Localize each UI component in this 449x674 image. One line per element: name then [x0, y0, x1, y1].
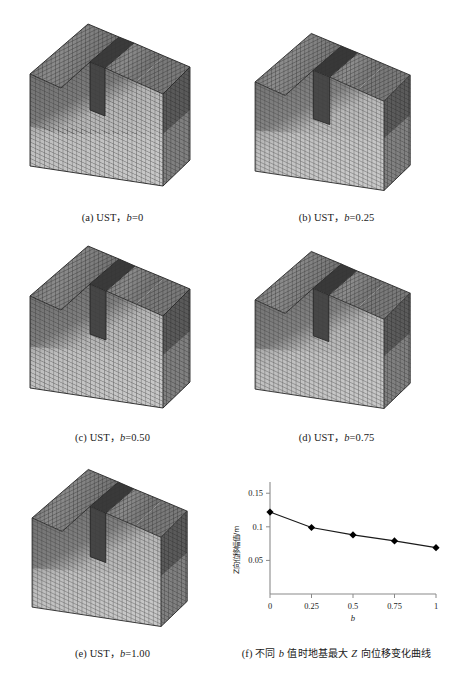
y-tick-label: 0.05: [248, 556, 263, 565]
caption-f-prefix: (f): [242, 648, 253, 659]
fem-mesh-svg-d: [232, 234, 442, 424]
series-polyline: [270, 512, 436, 548]
caption-c: (c) UST，b=0.50: [0, 429, 225, 444]
y-tick-label: 0.1: [253, 523, 263, 532]
caption-e-prefix: (e): [75, 648, 87, 659]
caption-f: (f) 不同 b 值时地基最大 Z 向位移变化曲线: [224, 645, 449, 660]
data-point-marker: [391, 537, 398, 544]
chart-svg: 0.050.10.15 00.250.50.751b: [234, 470, 446, 622]
panel-b: (b) UST，b=0.25: [224, 6, 449, 230]
data-point-marker: [308, 524, 315, 531]
fem-mesh-svg-c: [12, 228, 217, 424]
caption-b-value: =0.25: [350, 212, 375, 223]
panel-f: Z向位移幅值/m 0.050.10.15 00.250.50.751b b (f…: [224, 446, 449, 670]
fem-mesh-svg-b: [232, 16, 442, 206]
fem-block-d: [232, 234, 442, 424]
caption-b-label: UST，: [314, 212, 344, 223]
caption-f-cn3: 向位移变化曲线: [357, 648, 431, 659]
caption-e-value: =1.00: [125, 648, 150, 659]
caption-e: (e) UST，b=1.00: [0, 645, 225, 660]
caption-c-label: UST，: [90, 432, 120, 443]
fem-mesh-svg-e: [14, 452, 214, 642]
caption-b-prefix: (b): [299, 212, 312, 223]
caption-c-value: =0.50: [125, 432, 150, 443]
fem-block-c: [12, 228, 217, 424]
caption-d-label: UST，: [314, 432, 344, 443]
caption-c-prefix: (c): [75, 432, 87, 443]
caption-a-label: UST，: [96, 212, 126, 223]
y-tick-group: 0.050.10.15: [248, 489, 270, 565]
x-tick-group: 00.250.50.751b: [268, 594, 438, 622]
panel-c: (c) UST，b=0.50: [0, 226, 225, 450]
x-tick-label: 0.5: [348, 602, 358, 611]
x-tick-label: 0.75: [387, 602, 402, 611]
x-tick-label: 0.25: [304, 602, 319, 611]
fem-block-a: [12, 6, 217, 202]
displacement-chart: 0.050.10.15 00.250.50.751b b: [234, 470, 446, 622]
marker-group: [266, 508, 439, 551]
caption-a-prefix: (a): [82, 212, 94, 223]
data-point-marker: [266, 508, 273, 515]
y-tick-label: 0.15: [248, 489, 263, 498]
figure-root: (a) UST，b=0: [0, 0, 449, 674]
caption-b: (b) UST，b=0.25: [224, 209, 449, 224]
caption-a-value: =0: [132, 212, 143, 223]
x-tick-label: 0: [268, 602, 272, 611]
fem-block-e: [14, 452, 214, 642]
panel-a: (a) UST，b=0: [0, 6, 225, 230]
caption-d-prefix: (d): [299, 432, 312, 443]
caption-d-value: =0.75: [350, 432, 375, 443]
fem-mesh-svg-a: [12, 6, 217, 202]
panel-e: (e) UST，b=1.00: [0, 446, 225, 670]
caption-d: (d) UST，b=0.75: [224, 429, 449, 444]
caption-a: (a) UST，b=0: [0, 209, 225, 224]
data-point-marker: [432, 544, 439, 551]
fem-block-b: [232, 16, 442, 206]
panel-d: (d) UST，b=0.75: [224, 226, 449, 450]
data-point-marker: [349, 531, 356, 538]
caption-f-cn1: 不同: [255, 648, 278, 659]
x-tick-label: 1: [434, 602, 438, 611]
x-axis-label: b: [351, 613, 356, 622]
caption-f-cn2: 值时地基最大: [284, 648, 351, 659]
caption-e-label: UST，: [90, 648, 120, 659]
